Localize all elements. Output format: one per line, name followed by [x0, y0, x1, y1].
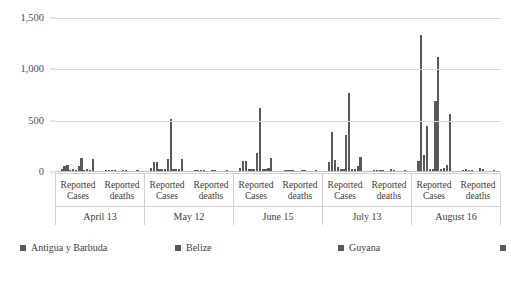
bar — [359, 157, 361, 171]
bar — [420, 35, 422, 171]
category-measure-label: ReportedCases — [234, 174, 278, 206]
bar — [92, 159, 94, 171]
category-measure-label: ReportedCases — [56, 174, 100, 206]
bar — [270, 158, 272, 171]
legend-item: Guyana — [338, 240, 500, 255]
category-group: ReportedCasesReporteddeathsJuly 13 — [322, 173, 411, 225]
bar — [437, 57, 439, 171]
chart-legend: Antigua y BarbudaBelizeGuyanaSt LuciaBah… — [20, 240, 500, 302]
axis-baseline — [55, 171, 501, 172]
plot-area — [55, 18, 501, 172]
category-group: ReportedCasesReporteddeathsApril 13 — [55, 173, 144, 225]
y-tick-label: 500 — [0, 115, 44, 126]
y-tick-label: 1,500 — [0, 13, 44, 24]
bar-chart: 05001,0001,500 ReportedCasesReporteddeat… — [0, 0, 511, 308]
legend-label: Antigua y Barbuda — [31, 242, 107, 253]
category-measure-label: Reporteddeaths — [456, 174, 500, 206]
bar — [181, 159, 183, 171]
category-measure-label: ReportedCases — [145, 174, 189, 206]
category-period-label: May 12 — [145, 206, 233, 225]
category-period-label: April 13 — [56, 206, 144, 225]
category-group: ReportedCasesReporteddeathsJune 15 — [233, 173, 322, 225]
legend-swatch-icon — [338, 245, 344, 251]
category-period-label: June 15 — [234, 206, 322, 225]
y-tick-label: 0 — [0, 167, 44, 178]
category-measure-label: ReportedCases — [323, 174, 367, 206]
bars-container — [55, 18, 501, 171]
category-measure-label: ReportedCases — [412, 174, 456, 206]
legend-swatch-icon — [175, 245, 181, 251]
gridline-1000 — [55, 69, 501, 70]
category-period-label: August 16 — [412, 206, 500, 225]
y-axis-labels: 05001,0001,500 — [0, 18, 48, 172]
legend-label: Belize — [186, 242, 212, 253]
bar — [348, 93, 350, 171]
legend-item: St Lucia — [500, 240, 511, 255]
legend-label: Guyana — [349, 242, 380, 253]
legend-swatch-icon — [20, 245, 26, 251]
category-group: ReportedCasesReporteddeathsMay 12 — [144, 173, 233, 225]
category-measure-label: Reporteddeaths — [367, 174, 411, 206]
bar — [449, 114, 451, 171]
gridline-500 — [55, 121, 501, 122]
category-measure-label: Reporteddeaths — [278, 174, 322, 206]
category-group: ReportedCasesReporteddeathsAugust 16 — [411, 173, 501, 225]
category-measure-label: Reporteddeaths — [189, 174, 233, 206]
bar — [170, 119, 172, 171]
y-tick-label: 1,000 — [0, 64, 44, 75]
bar — [426, 126, 428, 171]
category-measure-label: Reporteddeaths — [100, 174, 144, 206]
bar — [259, 108, 261, 171]
category-period-label: July 13 — [323, 206, 411, 225]
legend-swatch-icon — [500, 245, 506, 251]
legend-item: Belize — [175, 240, 338, 255]
legend-item: Antigua y Barbuda — [20, 240, 175, 255]
category-axis: ReportedCasesReporteddeathsApril 13Repor… — [55, 173, 501, 225]
gridline-1500 — [55, 18, 501, 19]
